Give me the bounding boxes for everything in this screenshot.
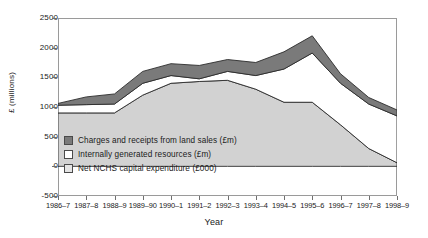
y-axis-tick-mark (52, 77, 57, 78)
y-axis-tick-label: -500 (6, 191, 58, 200)
y-axis-title: £ (millions) (7, 58, 16, 128)
y-axis-tick-label: 0 (6, 161, 58, 170)
x-axis-tick-mark (284, 196, 285, 200)
y-axis-tick-label: 1500 (6, 72, 58, 81)
x-axis-tick-mark (143, 196, 144, 200)
x-axis-tick-mark (341, 196, 342, 200)
legend-item: Internally generated resources (£m) (64, 147, 237, 161)
x-axis-tick-mark (115, 196, 116, 200)
chart-container: £ (millions) 25002000150010005000-500 19… (0, 0, 428, 238)
y-axis-tick-label: 2000 (6, 43, 58, 52)
chart-legend: Charges and receipts from land sales (£m… (64, 133, 237, 175)
legend-item: Charges and receipts from land sales (£m… (64, 133, 237, 147)
y-axis-tick-label: 2500 (6, 13, 58, 22)
legend-item: Net NCHS capital expenditure (£000) (64, 161, 237, 175)
x-axis-tick-mark (256, 196, 257, 200)
y-axis-tick-mark (52, 137, 57, 138)
x-axis-tick-mark (86, 196, 87, 200)
x-axis-tick-mark (312, 196, 313, 200)
y-axis-tick-mark (52, 18, 57, 19)
x-axis-tick-mark (199, 196, 200, 200)
legend-label: Internally generated resources (£m) (78, 150, 211, 159)
x-axis-tick-mark (369, 196, 370, 200)
legend-label: Charges and receipts from land sales (£m… (78, 136, 237, 145)
x-axis-tick-label: 1998–9 (374, 201, 420, 210)
legend-swatch (64, 136, 73, 145)
y-axis-tick-label: 500 (6, 132, 58, 141)
legend-label: Net NCHS capital expenditure (£000) (78, 164, 217, 173)
x-axis-tick-mark (397, 196, 398, 200)
x-axis-tick-mark (171, 196, 172, 200)
y-axis-tick-mark (52, 196, 57, 197)
x-axis-tick-mark (58, 196, 59, 200)
y-axis-tick-mark (52, 107, 57, 108)
legend-swatch (64, 150, 73, 159)
y-axis-tick-label: 1000 (6, 102, 58, 111)
y-axis-tick-mark (52, 48, 57, 49)
x-axis-title: Year (0, 217, 428, 227)
x-axis-tick-mark (228, 196, 229, 200)
y-axis-tick-mark (52, 166, 57, 167)
legend-swatch (64, 164, 73, 173)
